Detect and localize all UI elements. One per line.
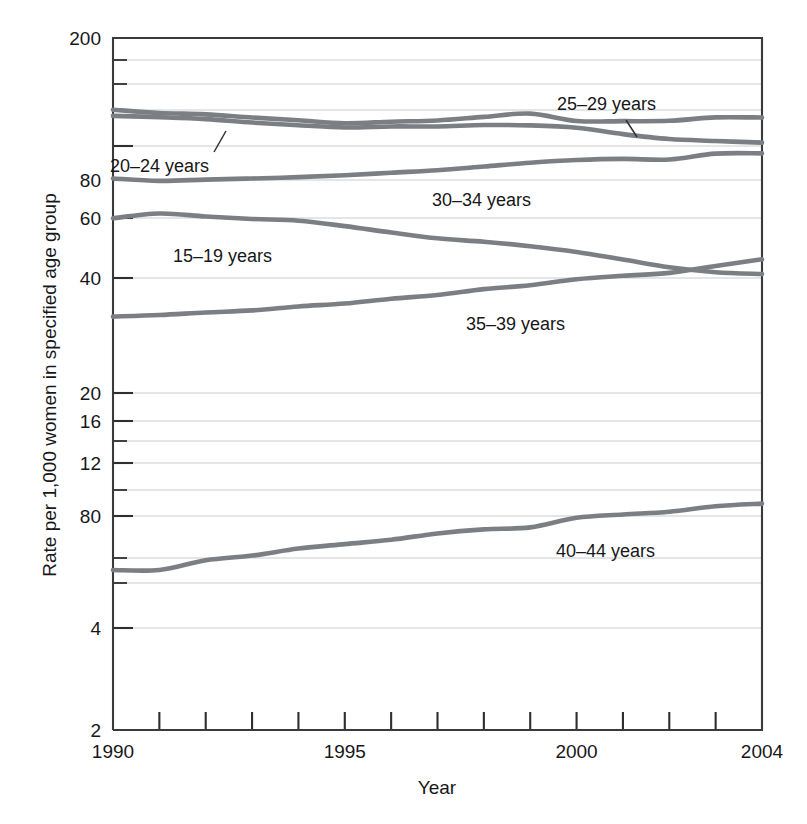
x-axis-title: Year <box>418 777 457 798</box>
y-tick-label: 4 <box>90 618 101 639</box>
x-tick-label: 1990 <box>92 741 134 762</box>
y-tick-label: 20 <box>80 383 101 404</box>
x-tick-label: 1995 <box>324 741 366 762</box>
series-label-40-44: 40–44 years <box>556 541 655 561</box>
figure-container: 2008060402016128042 1990199520002004 Rat… <box>0 0 807 824</box>
series-label-35-39: 35–39 years <box>466 314 565 334</box>
series-label-15-19: 15–19 years <box>173 246 272 266</box>
y-tick-label: 60 <box>80 208 101 229</box>
y-tick-label: 200 <box>69 28 101 49</box>
series-label-30-34: 30–34 years <box>432 190 531 210</box>
y-tick-label: 80 <box>80 170 101 191</box>
x-tick-label: 2004 <box>741 741 784 762</box>
x-tick-label-group: 1990199520002004 <box>92 741 784 762</box>
series-label-25-29: 25–29 years <box>557 94 656 114</box>
birth-rate-line-chart: 2008060402016128042 1990199520002004 Rat… <box>0 0 807 824</box>
series-label-20-24: 20–24 years <box>110 156 209 176</box>
plot-background <box>113 38 762 730</box>
y-axis-title: Rate per 1,000 women in specified age gr… <box>39 193 60 576</box>
y-tick-label: 12 <box>80 453 101 474</box>
y-tick-label: 16 <box>80 411 101 432</box>
y-tick-label: 40 <box>80 268 101 289</box>
y-tick-label: 80 <box>80 506 101 527</box>
y-tick-label-group: 2008060402016128042 <box>69 28 101 741</box>
y-tick-label: 2 <box>90 720 101 741</box>
x-tick-label: 2000 <box>555 741 597 762</box>
